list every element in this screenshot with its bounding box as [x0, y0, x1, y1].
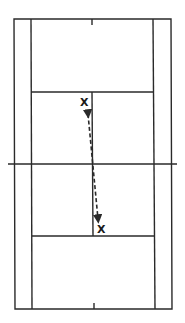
player-marker-lower: X: [97, 223, 106, 236]
court-diagram: X X: [0, 0, 185, 323]
player-marker-upper: X: [80, 96, 89, 109]
